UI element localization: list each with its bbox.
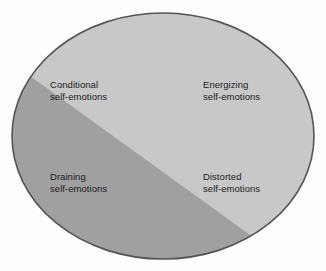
quadrant-label-energizing: Energizing self-emotions	[203, 79, 260, 102]
quadrant-label-line2: self-emotions	[50, 91, 107, 103]
quadrant-label-conditional: Conditional self-emotions	[50, 79, 107, 102]
quadrant-label-draining: Draining self-emotions	[50, 171, 107, 194]
quadrant-label-line1: Distorted	[203, 171, 260, 183]
emotion-quadrant-diagram: Conditional self-emotions Energizing sel…	[0, 0, 326, 271]
quadrant-label-line1: Conditional	[50, 79, 107, 91]
quadrant-label-line2: self-emotions	[203, 183, 260, 195]
quadrant-label-line2: self-emotions	[50, 183, 107, 195]
quadrant-label-line1: Energizing	[203, 79, 260, 91]
quadrant-label-distorted: Distorted self-emotions	[203, 171, 260, 194]
quadrant-label-line1: Draining	[50, 171, 107, 183]
diagram-canvas	[0, 0, 326, 271]
quadrant-label-line2: self-emotions	[203, 91, 260, 103]
